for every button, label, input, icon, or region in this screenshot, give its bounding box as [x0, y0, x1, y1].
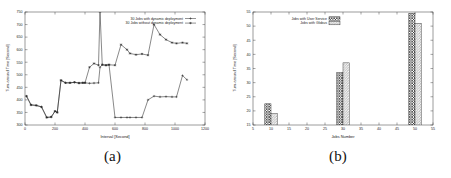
data-point-marker [135, 116, 137, 118]
data-point-marker [30, 104, 32, 106]
subfigure-b: 152025303540455055 510152025303540455055… [225, 0, 451, 178]
data-point-marker [69, 82, 71, 84]
x-tick-label: 30 [341, 127, 345, 131]
data-point-marker [175, 96, 177, 98]
data-point-marker [82, 82, 84, 84]
plot-frame [25, 12, 205, 125]
x-tick-label: 40 [377, 127, 381, 131]
data-point-marker [93, 62, 95, 64]
x-tick-label: 200 [52, 127, 58, 131]
legend-label-0: Jobs with User Service [291, 17, 327, 21]
bar-chart: 152025303540455055 510152025303540455055… [225, 0, 451, 150]
y-tick-label: 700 [17, 23, 23, 27]
data-point-marker [50, 116, 52, 118]
data-point-marker [101, 64, 103, 66]
data-series-group [25, 10, 188, 118]
data-point-marker [147, 54, 149, 56]
y-axis-ticks: 300350400450500550600650700750 [17, 10, 206, 127]
data-point-marker [46, 116, 48, 118]
legend-label-0: 30 Jobs with dynamic deployment [130, 17, 183, 21]
y-axis-label: Turn-around Time [Second] [5, 44, 10, 91]
line-chart: 300350400450500550600650700750 020040060… [0, 0, 225, 150]
data-point-marker [35, 104, 37, 106]
legend-swatch-0 [329, 17, 340, 20]
x-tick-label: 50 [413, 127, 417, 131]
data-point-marker [120, 116, 122, 118]
y-tick-label: 40 [247, 53, 251, 57]
y-tick-label: 650 [17, 35, 23, 39]
y-tick-label: 25 [247, 95, 251, 99]
x-tick-label: 1200 [201, 127, 209, 131]
y-tick-label: 550 [17, 61, 23, 65]
data-point-marker [171, 96, 173, 98]
data-point-marker [54, 110, 56, 112]
subfigure-a-caption: (a) [0, 148, 225, 165]
legend-label-1: Jobs with Globus [300, 21, 327, 25]
data-point-marker [129, 116, 131, 118]
data-point-marker [129, 52, 131, 54]
data-point-marker [40, 106, 42, 108]
data-point-marker [114, 116, 116, 118]
data-point-marker [141, 116, 143, 118]
bar-1-1 [343, 63, 349, 125]
x-axis-label: Interval [Second] [100, 134, 129, 139]
data-point-marker [120, 43, 122, 45]
data-point-marker [186, 42, 188, 44]
data-point-marker [88, 82, 90, 84]
data-point-marker [159, 96, 161, 98]
y-tick-label: 20 [247, 109, 251, 113]
y-tick-label: 350 [17, 111, 23, 115]
y-axis-label: Turn-around Time [Second] [232, 44, 237, 91]
data-point-marker [60, 79, 62, 81]
x-axis-ticks: 020040060080010001200 [24, 12, 209, 131]
x-tick-label: 55 [431, 127, 435, 131]
y-tick-label: 400 [17, 98, 23, 102]
figure-row: 300350400450500550600650700750 020040060… [0, 0, 451, 178]
legend-label-1: 30 Jobs without dynamic deployment [126, 21, 183, 25]
bar-chart-container: 152025303540455055 510152025303540455055… [225, 0, 451, 150]
data-point-marker [165, 38, 167, 40]
x-tick-label: 0 [24, 127, 26, 131]
data-point-marker [171, 41, 173, 43]
data-point-marker [189, 22, 191, 24]
subfigure-a: 300350400450500550600650700750 020040060… [0, 0, 225, 178]
y-tick-label: 45 [247, 39, 251, 43]
subfigure-b-caption: (b) [225, 148, 451, 165]
data-point-marker [189, 17, 191, 19]
x-tick-label: 15 [287, 127, 291, 131]
y-tick-label: 35 [247, 67, 251, 71]
x-tick-label: 600 [112, 127, 118, 131]
data-point-marker [84, 82, 86, 84]
line-chart-container: 300350400450500550600650700750 020040060… [0, 0, 225, 150]
bar-1-0 [337, 73, 343, 125]
data-point-marker [99, 10, 101, 12]
data-point-marker [73, 81, 75, 83]
y-tick-label: 500 [17, 73, 23, 77]
x-tick-label: 5 [252, 127, 254, 131]
bar-0-1 [271, 114, 277, 125]
data-point-marker [56, 111, 58, 113]
bar-2-0 [409, 13, 415, 125]
x-axis-label: Jobs Number [331, 134, 355, 139]
data-point-marker [135, 53, 137, 55]
data-point-marker [64, 82, 66, 84]
y-tick-label: 15 [247, 123, 251, 127]
data-point-marker [175, 42, 177, 44]
data-point-marker [25, 95, 27, 97]
data-point-marker [159, 33, 161, 35]
x-tick-label: 35 [359, 127, 363, 131]
y-tick-label: 450 [17, 86, 23, 90]
data-point-marker [97, 64, 99, 66]
bar-0-0 [265, 104, 271, 125]
data-point-marker [97, 82, 99, 84]
x-tick-label: 800 [142, 127, 148, 131]
x-tick-label: 1000 [171, 127, 179, 131]
series-0 [25, 64, 188, 119]
y-tick-label: 50 [247, 24, 251, 28]
x-tick-label: 20 [305, 127, 309, 131]
data-point-marker [126, 116, 128, 118]
data-point-marker [93, 82, 95, 84]
data-point-marker [141, 53, 143, 55]
legend: 30 Jobs with dynamic deployment30 Jobs w… [126, 17, 196, 26]
x-tick-label: 400 [82, 127, 88, 131]
